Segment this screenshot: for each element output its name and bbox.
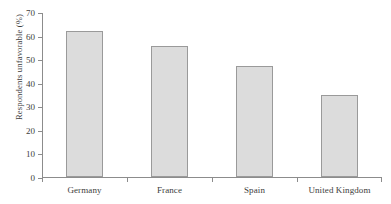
- y-tick-mark: [38, 107, 42, 108]
- plot-area: 010203040506070: [42, 13, 382, 178]
- x-tick-mark: [42, 178, 43, 182]
- x-tick-mark: [297, 178, 298, 182]
- y-tick-label: 60: [26, 32, 35, 41]
- category-label-spain: Spain: [244, 185, 265, 195]
- y-tick-mark: [38, 37, 42, 38]
- bar-united-kingdom: [321, 95, 358, 178]
- category-label-france: France: [157, 185, 182, 195]
- y-tick-label: 20: [26, 126, 35, 135]
- bar-france: [151, 46, 188, 177]
- bar-germany: [66, 31, 103, 177]
- y-tick-mark: [38, 60, 42, 61]
- bar-spain: [236, 66, 273, 177]
- x-tick-mark: [381, 178, 382, 182]
- y-tick-mark: [38, 154, 42, 155]
- y-tick-mark: [38, 84, 42, 85]
- x-tick-mark: [212, 178, 213, 182]
- y-tick-label: 50: [26, 56, 35, 65]
- cropped-title-remnant: [150, 0, 280, 5]
- y-tick-label: 10: [26, 150, 35, 159]
- category-label-germany: Germany: [67, 185, 101, 195]
- y-tick-mark: [38, 13, 42, 14]
- y-axis-line: [42, 13, 43, 178]
- y-tick-label: 30: [26, 103, 35, 112]
- x-tick-mark: [127, 178, 128, 182]
- y-tick-mark: [38, 131, 42, 132]
- y-tick-label: 40: [26, 79, 35, 88]
- y-axis-title: Respondents unfavorable (%): [14, 0, 24, 142]
- y-tick-label: 0: [31, 174, 36, 183]
- category-label-united-kingdom: United Kingdom: [308, 185, 370, 195]
- bar-chart: Respondents unfavorable (%) 010203040506…: [0, 0, 391, 204]
- y-tick-label: 70: [26, 9, 35, 18]
